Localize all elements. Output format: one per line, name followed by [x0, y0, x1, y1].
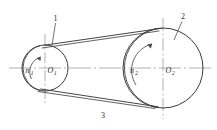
belt-upper-edge-inner — [42, 31, 159, 48]
belt-drive-figure: 1 2 3 n 1 O 1 n 2 O 2 — [0, 0, 217, 130]
large-pulley-speed-label: n — [130, 66, 134, 75]
callout-label-2: 2 — [181, 12, 185, 21]
callout-leader-large-pulley — [174, 22, 182, 41]
callout-leader-small-pulley — [52, 23, 56, 46]
belt-upper-run — [42, 28, 162, 48]
callout-label-3: 3 — [101, 111, 105, 120]
large-pulley-center-label: O — [166, 66, 172, 75]
large-pulley-rotation-arc — [132, 44, 152, 85]
large-pulley-center-subscript: 2 — [172, 70, 175, 76]
belt-lower-edge-outer — [41, 89, 159, 107]
belt-lower-run — [38, 89, 158, 109]
small-pulley-rotation-arrowhead — [37, 57, 41, 60]
large-pulley-speed-subscript: 2 — [135, 70, 138, 76]
small-pulley-center-label: O — [48, 66, 54, 75]
callout-2-leader-line — [174, 22, 182, 41]
small-pulley-center-subscript: 1 — [54, 70, 57, 76]
small-pulley-speed-label: n — [26, 66, 30, 75]
belt-upper-edge-outer — [45, 28, 162, 45]
callout-label-1: 1 — [54, 14, 58, 23]
callout-1-leader-line — [52, 23, 56, 46]
large-pulley-rotation-arrowhead — [148, 44, 152, 48]
belt-drive-drawing: 1 2 3 n 1 O 1 n 2 O 2 — [0, 0, 217, 130]
small-pulley-speed-subscript: 1 — [31, 70, 34, 76]
belt-lower-edge-inner — [38, 92, 155, 109]
